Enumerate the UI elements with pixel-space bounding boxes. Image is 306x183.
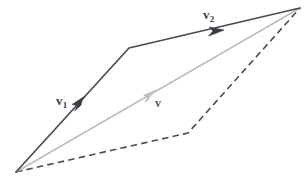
vector-label-v: v bbox=[155, 94, 161, 110]
vector-label-v2-subscript: 2 bbox=[210, 14, 215, 24]
vector-label-v2: v2 bbox=[203, 6, 214, 24]
vector-diagram-canvas: v1 v2 v bbox=[0, 0, 306, 183]
vector-label-v1: v1 bbox=[56, 92, 67, 110]
vector-label-v2-base: v bbox=[203, 7, 210, 22]
vector-diagram-svg bbox=[0, 0, 306, 183]
vector-label-v1-base: v bbox=[56, 93, 63, 108]
vector-label-v-base: v bbox=[155, 96, 161, 110]
vector-label-v1-subscript: 1 bbox=[63, 100, 68, 110]
v2-arrowhead bbox=[209, 27, 225, 36]
resultant-vector-line bbox=[16, 8, 300, 172]
